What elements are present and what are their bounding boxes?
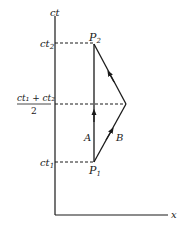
midpoint-numerator-label: ct₁ + ct₂ [17, 93, 55, 103]
p1-label: P1 [88, 164, 101, 178]
ct1-label: ct1 [40, 157, 54, 170]
worldline-b-outbound-arrow-icon [106, 130, 112, 140]
path-b-label: B [115, 132, 123, 143]
x-axis-label: x [171, 209, 177, 220]
midpoint-denominator-label: 2 [31, 106, 37, 116]
ct-axis-label: ct [50, 7, 61, 18]
ct2-label: ct2 [40, 38, 55, 51]
spacetime-diagram: ct x ct2 ct₁ + ct₂ 2 ct1 P2 P1 A B [0, 0, 186, 232]
worldline-b-return-arrow-icon [109, 73, 114, 82]
p2-label: P2 [88, 31, 101, 45]
path-a-label: A [83, 132, 91, 143]
